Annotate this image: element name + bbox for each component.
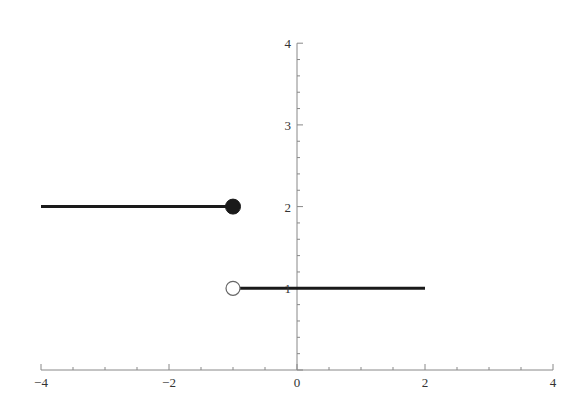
chart: −4−20241234 xyxy=(0,0,581,408)
tick-labels: −4−20241234 xyxy=(34,36,557,390)
series-layer xyxy=(41,199,425,295)
x-tick-label: −2 xyxy=(162,375,176,390)
y-tick-label: 4 xyxy=(285,36,292,51)
y-tick-label: 2 xyxy=(285,200,292,215)
y-tick-label: 3 xyxy=(285,118,292,133)
x-tick-label: 4 xyxy=(550,375,557,390)
y-tick-label: 1 xyxy=(285,281,292,296)
x-tick-label: −4 xyxy=(34,375,48,390)
closed-endpoint-marker xyxy=(226,199,241,214)
x-tick-label: 0 xyxy=(294,375,301,390)
open-endpoint-marker xyxy=(226,281,240,295)
x-tick-label: 2 xyxy=(422,375,429,390)
